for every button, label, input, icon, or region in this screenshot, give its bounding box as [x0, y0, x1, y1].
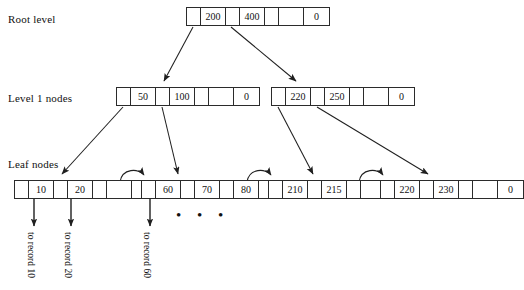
node-level1-right-cell-2 [311, 88, 325, 105]
node-leaf-2-cell-0 [269, 181, 283, 198]
node-leaf-1-cell-0 [142, 181, 156, 198]
node-level1-left-cell-4 [195, 88, 209, 105]
node-root-cell-4 [265, 8, 279, 25]
node-leaf-3-cell-0 [381, 181, 395, 198]
node-leaf-1-cell-3: 70 [195, 181, 220, 198]
node-leaf-2-cell-2 [308, 181, 322, 198]
record-pointer-label-60: to record 60 [142, 232, 152, 278]
node-leaf-2-cell-4 [347, 181, 361, 198]
node-root-cell-3: 400 [240, 8, 265, 25]
node-level1-left-cell-1: 50 [131, 88, 156, 105]
node-leaf-0-cell-5 [107, 181, 132, 198]
record-pointer-label-10: to record 10 [26, 232, 36, 278]
node-level1-left[interactable]: 50 100 0 [116, 87, 260, 106]
node-leaf-3-cell-4 [459, 181, 473, 198]
node-level1-left-cell-6: 0 [234, 88, 259, 105]
node-leaf-1-cell-2 [181, 181, 195, 198]
node-leaf-0-cell-4 [93, 181, 107, 198]
node-root-cell-1: 200 [201, 8, 226, 25]
node-leaf-0-cell-0 [15, 181, 29, 198]
node-level1-right-cell-3: 250 [325, 88, 350, 105]
node-level1-right[interactable]: 220 250 0 [271, 87, 415, 106]
row-label-root-level: Root level [8, 13, 56, 25]
node-leaf-2-cell-3: 215 [322, 181, 347, 198]
node-leaf-3-cell-2 [420, 181, 434, 198]
record-pointer-label-20: to record 20 [63, 232, 73, 278]
node-root-cell-2 [226, 8, 240, 25]
node-level1-left-cell-5 [209, 88, 234, 105]
node-leaf-1-cell-5: 80 [234, 181, 259, 198]
node-leaf-3-cell-1: 220 [395, 181, 420, 198]
node-leaf-0-cell-3: 20 [68, 181, 93, 198]
node-leaf-2-cell-1: 210 [283, 181, 308, 198]
row-label-leaf-nodes: Leaf nodes [8, 158, 59, 170]
ellipsis-indicator: • • • [176, 208, 229, 223]
node-leaf-0-cell-2 [54, 181, 68, 198]
node-leaf-3-cell-6: 0 [498, 181, 523, 198]
node-leaf-3-cell-5 [473, 181, 498, 198]
row-label-level-1-nodes: Level 1 nodes [8, 92, 72, 104]
node-leaf-1-cell-1: 60 [156, 181, 181, 198]
node-leaf-1[interactable]: 60 70 80 [141, 180, 274, 199]
node-level1-right-cell-5 [364, 88, 389, 105]
node-root-cell-0 [187, 8, 201, 25]
node-root-cell-5 [279, 8, 304, 25]
node-level1-left-cell-0 [117, 88, 131, 105]
node-leaf-0-cell-1: 10 [29, 181, 54, 198]
node-leaf-1-cell-4 [220, 181, 234, 198]
node-leaf-3-cell-3: 230 [434, 181, 459, 198]
node-leaf-3[interactable]: 220 230 0 [380, 180, 524, 199]
node-level1-left-cell-3: 100 [170, 88, 195, 105]
node-root-cell-6: 0 [304, 8, 329, 25]
node-level1-left-cell-2 [156, 88, 170, 105]
node-level1-right-cell-1: 220 [286, 88, 311, 105]
node-root[interactable]: 200 400 0 [186, 7, 330, 26]
node-leaf-0[interactable]: 10 20 [14, 180, 158, 199]
node-level1-right-cell-0 [272, 88, 286, 105]
node-level1-right-cell-4 [350, 88, 364, 105]
node-level1-right-cell-6: 0 [389, 88, 414, 105]
